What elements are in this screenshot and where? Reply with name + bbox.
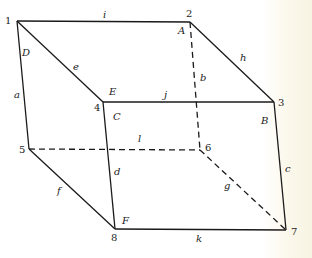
angle-label-D: D bbox=[21, 47, 30, 58]
edge-h bbox=[190, 22, 274, 102]
angle-label-F: F bbox=[121, 215, 130, 226]
box-diagram: ihjeadcfkblg12345678ABCDEF bbox=[0, 0, 312, 258]
edge-i bbox=[17, 21, 190, 22]
vertex-label-8: 8 bbox=[111, 232, 117, 243]
angle-label-B: B bbox=[260, 115, 268, 126]
vertex-label-2: 2 bbox=[186, 8, 192, 19]
vertex-label-5: 5 bbox=[19, 144, 25, 155]
vertex-label-6: 6 bbox=[205, 142, 211, 153]
edge-label-a: a bbox=[14, 89, 20, 100]
edge-label-f: f bbox=[56, 185, 63, 196]
edge-label-b: b bbox=[200, 72, 206, 83]
edge-k bbox=[115, 229, 286, 230]
edge-b bbox=[190, 22, 200, 150]
angle-label-C: C bbox=[113, 111, 121, 122]
angle-label-E: E bbox=[108, 86, 117, 97]
box-wireframe-svg: ihjeadcfkblg12345678ABCDEF bbox=[0, 0, 312, 258]
vertex-label-1: 1 bbox=[5, 15, 11, 26]
vertex-label-4: 4 bbox=[94, 102, 100, 113]
edge-label-i: i bbox=[103, 9, 106, 20]
edge-l bbox=[29, 149, 200, 150]
edge-label-c: c bbox=[285, 163, 291, 174]
edge-label-h: h bbox=[240, 52, 246, 63]
edge-label-k: k bbox=[196, 233, 202, 244]
edge-f bbox=[29, 149, 115, 229]
edge-g bbox=[200, 150, 286, 230]
angle-label-A: A bbox=[177, 25, 185, 36]
edge-label-d: d bbox=[114, 166, 120, 177]
edge-e bbox=[17, 21, 103, 102]
edge-label-j: j bbox=[162, 89, 167, 100]
vertex-label-7: 7 bbox=[291, 226, 297, 237]
edge-label-l: l bbox=[138, 133, 141, 144]
edge-label-e: e bbox=[73, 61, 79, 72]
vertex-label-3: 3 bbox=[278, 97, 284, 108]
edge-label-g: g bbox=[224, 180, 230, 191]
edge-a bbox=[17, 21, 29, 149]
